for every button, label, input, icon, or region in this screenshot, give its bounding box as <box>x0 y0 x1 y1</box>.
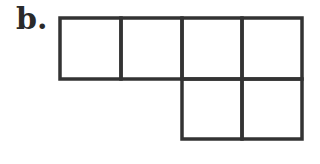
grid-cell <box>121 18 182 79</box>
grid-cell <box>242 18 302 79</box>
grid-cell <box>182 79 242 139</box>
grid-shape-diagram <box>0 0 320 164</box>
grid-cell <box>242 79 302 139</box>
grid-cell <box>182 18 242 79</box>
grid-cell <box>60 18 121 79</box>
